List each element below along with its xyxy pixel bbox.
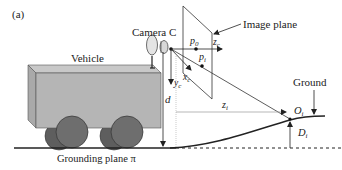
oi-point [288,117,291,120]
grounding-plane-label: Grounding plane π [57,153,136,164]
zi-label: zi [221,99,228,112]
height-d-label: d [165,93,171,105]
oi-label: Oi [294,105,304,118]
pi-point [200,64,204,68]
camera-label: Camera C [132,26,176,38]
image-plane-pointer [214,24,241,34]
rear-wheel [56,116,88,148]
vehicle-front-face [36,73,161,128]
ray-camera-to-oi [171,49,290,119]
image-plane [183,6,212,99]
di-label: Di [297,127,308,140]
ground-label: Ground [293,76,327,88]
vehicle-label: Vehicle [71,52,104,64]
camera [147,35,173,55]
camera-body [147,35,158,55]
yc-label: yc [173,78,182,90]
vehicle-camera-ground-diagram: (a) Vehicle Grounding plane π Camera C d [0,0,342,170]
vehicle: Vehicle [28,52,161,150]
zc-label: zc [212,37,221,49]
image-plane-label: Image plane [243,18,297,30]
panel-label: (a) [12,8,25,21]
front-wheel [111,116,143,148]
vehicle-side-face [28,65,36,128]
vehicle-top-face [28,65,161,73]
